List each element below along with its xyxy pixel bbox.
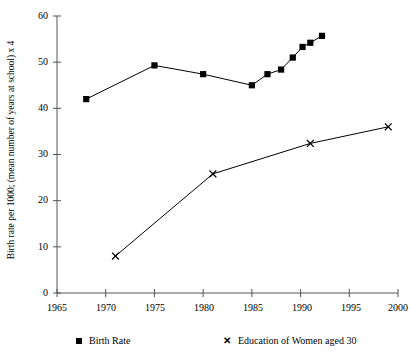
data-point-square <box>151 62 157 68</box>
y-axis-label: Birth rate per 1000; (mean number of yea… <box>0 0 22 300</box>
legend-label-birth-rate: Birth Rate <box>89 335 130 346</box>
y-tick-label-30: 30 <box>22 148 48 159</box>
x-tick-label-1980: 1980 <box>184 302 224 313</box>
x-tick-label-1995: 1995 <box>331 302 371 313</box>
x-tick-label-1970: 1970 <box>86 302 126 313</box>
data-point-square <box>307 40 313 46</box>
series-birth-rate <box>83 33 325 102</box>
series-line <box>86 36 322 99</box>
chart-container: Birth rate per 1000; (mean number of yea… <box>0 0 410 360</box>
data-point-square <box>83 96 89 102</box>
legend-item-birth-rate: Birth Rate <box>76 335 130 346</box>
y-tick-label-0: 0 <box>22 287 48 298</box>
x-tick-label-1990: 1990 <box>282 302 322 313</box>
cross-marker-icon: ✕ <box>222 336 231 345</box>
data-point-square <box>249 82 255 88</box>
square-marker-icon <box>76 338 82 344</box>
data-point-square <box>264 71 270 77</box>
series-line <box>115 127 388 256</box>
data-point-square <box>278 66 284 72</box>
data-series-layer <box>83 33 392 260</box>
y-tick-label-50: 50 <box>22 56 48 67</box>
y-axis-label-text: Birth rate per 1000; (mean number of yea… <box>6 41 16 260</box>
series-education <box>112 123 392 259</box>
x-tick-label-2000: 2000 <box>378 302 410 313</box>
axis-lines <box>53 16 398 297</box>
chart-legend: Birth Rate ✕ Education of Women aged 30 <box>0 332 410 356</box>
y-tick-label-10: 10 <box>22 241 48 252</box>
legend-item-education: ✕ Education of Women aged 30 <box>222 335 356 346</box>
x-tick-label-1965: 1965 <box>37 302 77 313</box>
x-tick-label-1975: 1975 <box>135 302 175 313</box>
y-tick-label-60: 60 <box>22 10 48 21</box>
legend-label-education: Education of Women aged 30 <box>238 335 356 346</box>
x-tick-label-1985: 1985 <box>233 302 273 313</box>
y-tick-label-20: 20 <box>22 194 48 205</box>
data-point-square <box>290 54 296 60</box>
data-point-square <box>299 44 305 50</box>
data-point-square <box>319 33 325 39</box>
data-point-square <box>200 71 206 77</box>
y-tick-label-40: 40 <box>22 102 48 113</box>
